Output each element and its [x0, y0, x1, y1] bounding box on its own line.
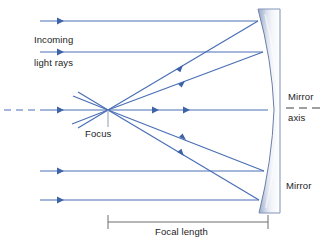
diverging-ray-5: [73, 96, 108, 110]
reflected-ray-2: [108, 52, 263, 110]
diverging-ray-4: [78, 92, 108, 110]
label-focal-length: Focal length: [155, 226, 208, 237]
label-mirror-axis-line2: axis: [288, 112, 305, 123]
diverging-ray-2: [72, 110, 108, 124]
reflected-ray-4: [108, 110, 264, 171]
label-focus: Focus: [85, 128, 111, 139]
reflected-ray-1: [108, 21, 258, 110]
diverging-ray-1: [78, 110, 108, 128]
label-incoming-rays-line1: Incoming: [34, 34, 73, 45]
label-mirror: Mirror: [286, 180, 311, 191]
incoming-ray-arrowheads: [57, 18, 64, 204]
label-incoming-rays-line2: light rays: [34, 57, 73, 68]
ray-diagram-figure: Incoming light rays Focus Mirror axis Mi…: [0, 0, 328, 247]
label-mirror-axis-line1: Mirror: [288, 91, 313, 102]
mirror-body: [258, 9, 280, 213]
